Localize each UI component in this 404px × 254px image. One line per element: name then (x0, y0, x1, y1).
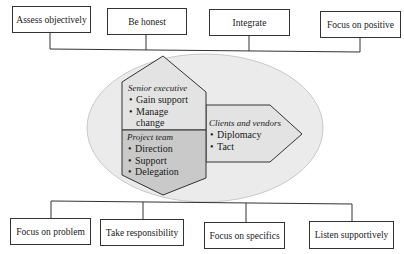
box-label: Focus on positive (327, 20, 394, 30)
bottom-connector-lines (51, 201, 352, 222)
clients-vendors-title: Clients and vendors (209, 118, 281, 129)
senior-executive-label: Senior executive Gain support Manage cha… (128, 83, 188, 129)
list-item: Direction (127, 143, 179, 155)
box-focus-on-positive: Focus on positive (320, 11, 401, 38)
box-focus-on-problem: Focus on problem (10, 218, 91, 245)
box-label: Listen supportively (315, 230, 389, 240)
list-item: Manage change (128, 106, 176, 129)
diagram-shapes (0, 0, 404, 254)
clients-vendors-list: Diplomacy Tact (209, 129, 281, 152)
box-label: Focus on problem (16, 227, 85, 237)
list-item: Support (127, 155, 179, 167)
box-label: Assess objectively (16, 15, 86, 25)
box-label: Integrate (233, 18, 267, 28)
top-connector-lines (50, 33, 360, 52)
list-item: Gain support (128, 94, 188, 106)
list-item: Delegation (127, 166, 179, 178)
senior-executive-title: Senior executive (128, 83, 188, 94)
list-item: Tact (209, 141, 281, 153)
project-team-title: Project team (127, 132, 179, 143)
project-team-label: Project team Direction Support Delegatio… (127, 132, 179, 178)
box-focus-on-specifics: Focus on specifics (204, 222, 285, 249)
box-listen-supportively: Listen supportively (309, 221, 394, 249)
list-item: Diplomacy (209, 129, 281, 141)
clients-vendors-label: Clients and vendors Diplomacy Tact (209, 118, 281, 152)
box-assess-objectively: Assess objectively (12, 6, 91, 33)
project-team-list: Direction Support Delegation (127, 143, 179, 178)
box-take-responsibility: Take responsibility (100, 219, 184, 246)
box-be-honest: Be honest (107, 8, 187, 35)
senior-executive-list: Gain support Manage change (128, 94, 188, 129)
box-label: Focus on specifics (209, 231, 279, 241)
box-integrate: Integrate (209, 9, 290, 36)
box-label: Take responsibility (106, 228, 178, 238)
box-label: Be honest (128, 17, 166, 27)
